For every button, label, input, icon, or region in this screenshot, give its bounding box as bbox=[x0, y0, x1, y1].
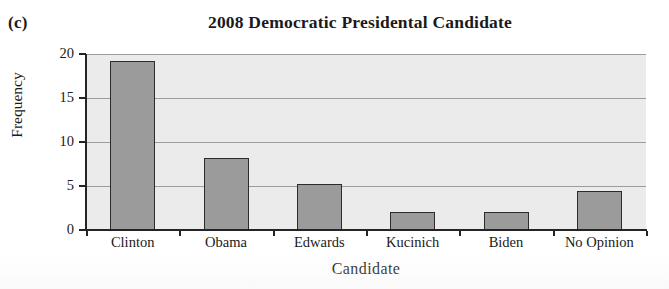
bar-no-opinion bbox=[577, 191, 622, 230]
bar-edwards bbox=[297, 184, 342, 230]
bar-clinton bbox=[110, 61, 155, 230]
panel-label: (c) bbox=[8, 13, 28, 33]
x-tick-mark bbox=[646, 231, 648, 236]
y-tick-mark bbox=[79, 53, 86, 55]
gridline bbox=[86, 186, 646, 187]
y-tick-mark bbox=[79, 97, 86, 99]
chart-title: 2008 Democratic Presidental Candidate bbox=[110, 12, 610, 33]
y-tick-mark bbox=[79, 185, 86, 187]
x-category-label: Biden bbox=[459, 235, 552, 251]
y-tick-label: 5 bbox=[48, 178, 74, 193]
x-category-label: No Opinion bbox=[553, 235, 646, 251]
y-tick-mark bbox=[79, 229, 86, 231]
x-axis-title: Candidate bbox=[86, 260, 646, 278]
x-category-label: Edwards bbox=[273, 235, 366, 251]
plot-area-wrapper bbox=[86, 54, 646, 230]
y-tick-mark bbox=[79, 141, 86, 143]
bar-obama bbox=[204, 158, 249, 230]
bar-kucinich bbox=[390, 212, 435, 230]
y-tick-label: 15 bbox=[48, 90, 74, 105]
plot-area bbox=[86, 54, 646, 230]
y-tick-label: 20 bbox=[48, 46, 74, 61]
gridline bbox=[86, 142, 646, 143]
x-category-label: Kucinich bbox=[366, 235, 459, 251]
x-category-label: Clinton bbox=[86, 235, 179, 251]
gridline bbox=[86, 54, 646, 55]
bar-biden bbox=[484, 212, 529, 230]
figure-panel-c: (c) 2008 Democratic Presidental Candidat… bbox=[0, 0, 669, 289]
y-tick-label: 10 bbox=[48, 134, 74, 149]
gridline bbox=[86, 98, 646, 99]
x-category-label: Obama bbox=[179, 235, 272, 251]
y-tick-label: 0 bbox=[48, 222, 74, 237]
y-axis-title: Frequency bbox=[8, 50, 26, 160]
